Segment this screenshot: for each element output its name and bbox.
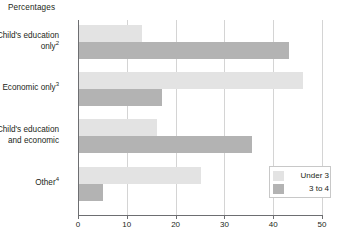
- y-axis-line: [78, 20, 79, 215]
- chart-title: Percentages: [8, 3, 55, 12]
- category-label: Economic only3: [0, 83, 59, 94]
- bar-under-3: [79, 25, 142, 42]
- legend-item: 3 to 4: [273, 183, 329, 195]
- bar-group: [79, 72, 322, 106]
- x-axis-tick-label: 0: [76, 220, 80, 229]
- x-axis-tick-label: 50: [318, 220, 327, 229]
- x-axis-tick-label: 20: [171, 220, 180, 229]
- legend-item: Under 3: [273, 170, 329, 182]
- x-axis-tick-label: 40: [269, 220, 278, 229]
- bar-3-to-4: [79, 42, 289, 59]
- chart-legend: Under 33 to 4: [269, 166, 331, 198]
- category-label: Child's educationand economic: [0, 125, 59, 146]
- bar-under-3: [79, 72, 303, 89]
- category-label: Other4: [0, 178, 59, 189]
- bar-3-to-4: [79, 184, 103, 201]
- bar-3-to-4: [79, 89, 162, 106]
- bar-3-to-4: [79, 136, 252, 153]
- bar-group: [79, 119, 322, 153]
- x-axis-tick-label: 10: [122, 220, 131, 229]
- bar-chart: Percentages Child's educationonly2Econom…: [0, 0, 337, 240]
- legend-label: 3 to 4: [286, 183, 329, 195]
- category-label: Child's educationonly2: [0, 31, 59, 52]
- legend-label: Under 3: [286, 170, 329, 182]
- x-axis-line: [78, 215, 322, 216]
- legend-swatch: [273, 171, 284, 181]
- tick-mark: [322, 215, 323, 219]
- x-axis-tick-label: 30: [220, 220, 229, 229]
- bar-group: [79, 25, 322, 59]
- bar-under-3: [79, 119, 157, 136]
- legend-swatch: [273, 184, 284, 194]
- bar-under-3: [79, 167, 201, 184]
